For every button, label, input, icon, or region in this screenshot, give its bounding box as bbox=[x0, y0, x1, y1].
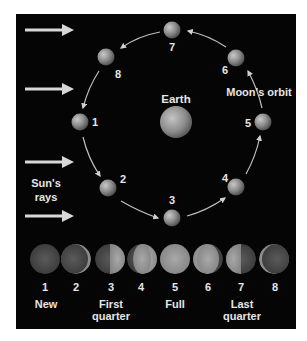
phase-numbers: 1 2 3 4 5 6 7 8 bbox=[42, 281, 278, 293]
phase-number: 6 bbox=[205, 281, 211, 293]
phase-number: 1 bbox=[42, 281, 48, 293]
sun-rays-label: rays bbox=[35, 191, 58, 203]
sun-ray-arrow-icon bbox=[25, 156, 74, 168]
sun-ray-arrow-icon bbox=[25, 24, 74, 36]
orbit-number: 8 bbox=[115, 68, 121, 80]
phase-number: 5 bbox=[172, 281, 178, 293]
orbit-number: 5 bbox=[245, 117, 251, 129]
moon-position-icon bbox=[72, 114, 89, 131]
phase-number: 7 bbox=[238, 281, 244, 293]
orbit-arrow-icon bbox=[121, 201, 158, 218]
moon-position-icon bbox=[100, 180, 117, 197]
orbit-number: 2 bbox=[120, 173, 126, 185]
moon-position-icon bbox=[98, 49, 115, 66]
phase-number: 3 bbox=[108, 281, 114, 293]
orbit-number: 3 bbox=[169, 194, 175, 206]
orbit-number: 6 bbox=[222, 64, 228, 76]
orbit-number: 1 bbox=[92, 116, 98, 128]
orbit-label: Moon's orbit bbox=[226, 86, 292, 98]
phase-last-quarter-icon bbox=[226, 244, 256, 274]
phase-number: 8 bbox=[272, 281, 278, 293]
phase-name: First bbox=[99, 298, 123, 310]
sun-ray-arrow-icon bbox=[25, 83, 74, 95]
orbit-arrow-icon bbox=[83, 137, 100, 176]
orbit-number: 7 bbox=[169, 41, 175, 53]
phase-new-moon-icon bbox=[30, 244, 60, 274]
moon-position-icon bbox=[255, 114, 272, 131]
orbit-arrow-icon bbox=[187, 198, 225, 216]
orbit-arrow-icon bbox=[246, 136, 260, 174]
moon-phase-diagram: Sun's rays Earth Moon's orbit 1 2 3 4 5 … bbox=[0, 0, 307, 341]
phase-name: quarter bbox=[92, 310, 131, 322]
phase-names: New First quarter Full Last quarter bbox=[35, 298, 262, 322]
moon-position-icon bbox=[164, 22, 181, 39]
moon-position-icon bbox=[228, 50, 245, 67]
phase-waxing-gibbous-icon bbox=[127, 244, 157, 274]
phase-waning-crescent-icon bbox=[259, 244, 292, 274]
phase-waxing-crescent-icon bbox=[58, 244, 91, 274]
phase-name: New bbox=[35, 298, 58, 310]
phase-waning-gibbous-icon bbox=[193, 244, 223, 274]
orbit-number: 4 bbox=[222, 172, 229, 184]
phase-number: 2 bbox=[73, 281, 79, 293]
orbit-arrow-icon bbox=[188, 31, 226, 47]
moon-position-icon bbox=[228, 179, 245, 196]
phase-number: 4 bbox=[138, 281, 145, 293]
earth-label: Earth bbox=[161, 93, 190, 105]
phase-row bbox=[30, 244, 292, 274]
phase-first-quarter-icon bbox=[95, 244, 125, 274]
phase-full-moon-icon bbox=[160, 244, 190, 274]
phase-name: Full bbox=[165, 298, 185, 310]
orbit-arrow-icon bbox=[83, 71, 99, 108]
earth-icon bbox=[160, 106, 192, 138]
orbit-arrow-icon bbox=[121, 32, 160, 48]
phase-name: quarter bbox=[223, 310, 262, 322]
sun-rays-label: Sun's bbox=[31, 177, 61, 189]
phase-name: Last bbox=[231, 298, 254, 310]
moon-position-icon bbox=[164, 210, 181, 227]
sun-ray-arrow-icon bbox=[25, 210, 74, 222]
